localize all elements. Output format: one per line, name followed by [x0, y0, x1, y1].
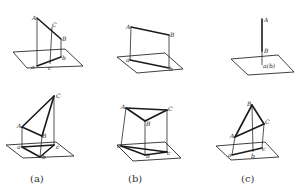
point-label: A	[31, 14, 37, 21]
point-label: B	[246, 100, 252, 107]
figure-edge	[252, 105, 264, 124]
figure-edge	[235, 105, 252, 137]
point-label: a	[31, 63, 35, 70]
point-label: b	[62, 54, 66, 61]
caption-c: (c)	[241, 173, 255, 184]
caption-a: (a)	[30, 173, 44, 184]
point-label: b	[146, 152, 150, 159]
point-label: b	[42, 153, 46, 160]
point-label: b	[169, 65, 173, 72]
point-label: C	[52, 21, 57, 28]
point-label: C	[56, 92, 61, 99]
point-label: c	[56, 143, 60, 150]
point-label: a	[117, 142, 121, 149]
projector-line	[232, 137, 235, 155]
point-label: C	[168, 105, 173, 112]
panel-bottom-a: CABacb	[6, 92, 74, 160]
panel-top-b: ABab	[117, 23, 183, 73]
figure-edge	[22, 127, 42, 136]
panel-bottom-c: BCAabc	[216, 100, 279, 160]
point-label: b	[251, 152, 255, 159]
figure-edge	[130, 60, 169, 68]
point-label: C	[265, 118, 270, 125]
point-label: A	[125, 23, 131, 30]
point-label: B	[41, 132, 47, 139]
figure-edge	[232, 148, 262, 155]
point-label: A	[263, 16, 269, 23]
panel-top-a: ACBacb	[13, 14, 83, 71]
diagram-panels: ACBacbABabABa(b)CABacbACBabcBCAabc	[6, 14, 294, 161]
point-label: B	[61, 35, 67, 42]
point-label: a(b)	[263, 62, 276, 69]
figure-edge	[131, 27, 169, 35]
point-label: B	[263, 47, 269, 54]
projection-diagram: ACBacbABabABa(b)CABacbACBabcBCAabc (a)(b…	[0, 0, 295, 194]
point-label: c	[167, 149, 171, 156]
projector-line	[121, 108, 126, 146]
projector-line	[50, 27, 52, 64]
figure-edge	[126, 108, 167, 110]
caption-b: (b)	[128, 173, 142, 184]
point-label: a	[126, 56, 130, 63]
panel-bottom-b: ACBabc	[117, 103, 181, 161]
panel-top-c: ABa(b)	[231, 16, 294, 75]
point-label: A	[16, 122, 22, 129]
point-label: a	[228, 151, 232, 158]
figure-edge	[22, 147, 40, 157]
projector-line	[130, 27, 131, 60]
point-label: a	[17, 143, 21, 150]
point-label: B	[169, 31, 175, 38]
point-label: A	[120, 103, 126, 110]
figure-captions: (a)(b)(c)	[30, 173, 255, 184]
figure-edge	[37, 18, 61, 39]
figure-edge	[22, 145, 54, 147]
point-label: c	[262, 145, 266, 152]
point-label: B	[145, 120, 151, 127]
figure-edge	[126, 108, 145, 121]
point-label: A	[229, 132, 235, 139]
